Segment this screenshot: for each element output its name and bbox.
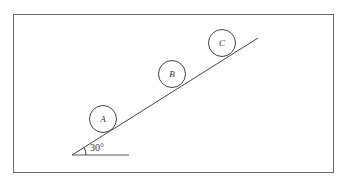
ball-c: C bbox=[209, 30, 236, 57]
ball-b-label: B bbox=[169, 69, 175, 79]
inclined-plane-diagram: 30° A B C bbox=[0, 0, 343, 184]
ball-c-label: C bbox=[219, 38, 226, 48]
ball-a: A bbox=[90, 106, 117, 133]
ball-a-label: A bbox=[99, 114, 106, 124]
ball-b: B bbox=[159, 61, 186, 88]
angle-label: 30° bbox=[90, 142, 104, 153]
frame-border bbox=[14, 15, 334, 173]
